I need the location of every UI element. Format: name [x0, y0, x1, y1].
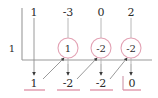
synthetic-division-diagram: 1 1 -3 0 2 1 -2 -2 1 -2 -2 0 — [0, 0, 158, 98]
down-arrows — [34, 18, 131, 75]
result-value-0: 1 — [31, 78, 38, 89]
top-coefficient-3: 2 — [128, 7, 135, 18]
top-coefficient-1: -3 — [63, 7, 74, 18]
top-coefficient-2: 0 — [98, 7, 105, 18]
remainder-value: 0 — [129, 78, 136, 89]
divisor-value: 1 — [9, 43, 15, 54]
diagonal-arrows — [43, 58, 127, 79]
circled-product-2: -2 — [126, 43, 136, 54]
diagonal-arrow-1 — [43, 58, 64, 79]
circled-product-1: -2 — [96, 43, 106, 54]
top-coefficient-0: 1 — [31, 7, 38, 18]
circled-product-0: 1 — [65, 43, 71, 54]
diagonal-arrow-3 — [110, 58, 127, 79]
coefficient-stems — [68, 18, 131, 64]
diagonal-arrow-2 — [77, 58, 97, 79]
result-value-2: -2 — [96, 78, 107, 89]
result-value-1: -2 — [63, 78, 74, 89]
